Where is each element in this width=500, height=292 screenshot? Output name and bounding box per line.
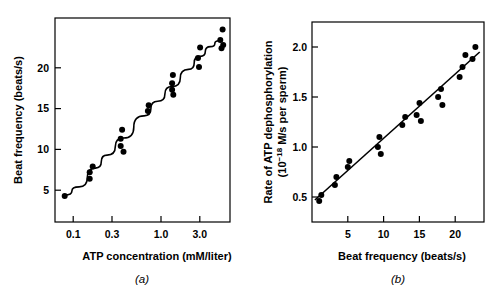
panel-a-xtick-1: 0.3 (105, 228, 120, 240)
panel-b-x-ticks (348, 216, 455, 222)
data-point (333, 174, 339, 180)
panel-b-xtick-2: 15 (414, 228, 426, 240)
panel-a-plot-frame (55, 18, 230, 222)
data-point (220, 42, 226, 48)
panel-b-svg: 0.5 1.0 1.5 2.0 5 10 15 20 Beat frequenc… (252, 0, 500, 292)
panel-b-y-axis-label-line2-group: (10−18 M/s per sperm) (275, 66, 288, 177)
data-point (169, 80, 175, 86)
panel-a-ytick-2: 15 (37, 102, 49, 114)
panel-b-ytick-1: 1.0 (292, 141, 307, 153)
panel-b-y-axis-label-line1: Rate of ATP dephosphorylation (262, 40, 274, 203)
chart-panel-a: 5 10 15 20 0.1 0.3 1.0 3.0 ATP concentra… (0, 0, 252, 292)
data-point (87, 169, 93, 175)
panel-b-ytick-0: 0.5 (292, 191, 307, 203)
panel-b-xtick-1: 10 (378, 228, 390, 240)
data-point (196, 64, 202, 70)
data-point (318, 192, 324, 198)
panel-a-ytick-0: 5 (43, 184, 49, 196)
panel-b-x-axis-label: Beat frequency (beats/s) (338, 250, 466, 262)
data-point (435, 94, 441, 100)
chart-panel-b: 0.5 1.0 1.5 2.0 5 10 15 20 Beat frequenc… (252, 0, 500, 292)
data-point (62, 193, 68, 199)
panel-b-ytick-3: 2.0 (292, 41, 307, 53)
data-point (146, 102, 152, 108)
panel-a-letter: (a) (135, 273, 149, 285)
data-point (197, 44, 203, 50)
data-point (220, 26, 226, 32)
figure-container: 5 10 15 20 0.1 0.3 1.0 3.0 ATP concentra… (0, 0, 500, 292)
data-point (378, 151, 384, 157)
data-point (460, 64, 466, 70)
panel-b-letter: (b) (391, 273, 405, 285)
panel-b-xtick-3: 20 (449, 228, 461, 240)
panel-b-xtick-0: 5 (345, 228, 351, 240)
data-point (118, 143, 124, 149)
data-point (90, 164, 96, 170)
data-point (316, 198, 322, 204)
panel-b-y-ticks (312, 47, 318, 197)
panel-a-x-axis-label: ATP concentration (mM/liter) (82, 250, 232, 262)
data-point (439, 102, 445, 108)
data-point (418, 118, 424, 124)
panel-a-xtick-2: 1.0 (154, 228, 169, 240)
data-point (457, 74, 463, 80)
panel-b-data-points (316, 44, 478, 204)
data-point (417, 100, 423, 106)
data-point (145, 108, 151, 114)
panel-b-plot-frame (312, 22, 484, 222)
data-point (472, 44, 478, 50)
panel-b-ytick-2: 1.5 (292, 91, 307, 103)
panel-a-svg: 5 10 15 20 0.1 0.3 1.0 3.0 ATP concentra… (0, 0, 252, 292)
data-point (195, 55, 201, 61)
panel-a-ytick-3: 20 (37, 62, 49, 74)
data-point (119, 127, 125, 133)
data-point (438, 86, 444, 92)
panel-b-y-axis-label-line2: (10−18 M/s per sperm) (275, 66, 288, 177)
data-point (402, 114, 408, 120)
data-point (414, 112, 420, 118)
data-point (170, 72, 176, 78)
data-point (462, 52, 468, 58)
data-point (332, 182, 338, 188)
data-point (170, 92, 176, 98)
data-point (345, 164, 351, 170)
panel-a-x-ticks (73, 216, 200, 222)
panel-b-fit-line (315, 52, 480, 200)
data-point (470, 56, 476, 62)
data-point (87, 176, 93, 182)
data-point (376, 134, 382, 140)
panel-a-xtick-0: 0.1 (66, 228, 81, 240)
panel-a-y-ticks (55, 68, 61, 190)
panel-a-ytick-1: 10 (37, 143, 49, 155)
data-point (121, 149, 127, 155)
data-point (375, 144, 381, 150)
data-point (118, 136, 124, 142)
data-point (399, 122, 405, 128)
panel-a-y-axis-label: Beat frequency (beats/s) (12, 56, 24, 184)
panel-a-data-points (62, 26, 227, 199)
data-point (346, 158, 352, 164)
panel-a-xtick-3: 3.0 (192, 228, 207, 240)
